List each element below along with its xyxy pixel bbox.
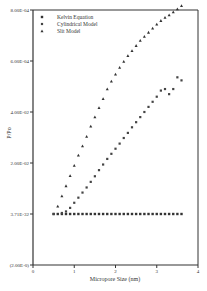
y-axis-label: P/Po [6, 127, 12, 138]
legend-item: Slit Model [57, 28, 81, 34]
y-tick-label: 6.00E-04 [11, 59, 30, 64]
y-tick-label: 4.00E-02 [11, 110, 30, 115]
legend-item: Cylindrical Model [57, 21, 98, 27]
x-tick-label: 1 [73, 269, 76, 274]
legend: Kelvin EquationCylindrical ModelSlit Mod… [41, 14, 98, 34]
x-axis-label: Micropore Size (nm) [90, 276, 140, 283]
y-tick-label: 2.00E-02 [11, 161, 30, 166]
scatter-chart: (2.00E-0)3.71E-322.00E-024.00E-026.00E-0… [0, 0, 207, 291]
axes [33, 10, 198, 265]
x-tick-label: 3 [156, 269, 159, 274]
data-points [52, 4, 183, 215]
x-axis-ticks: 01234 [32, 265, 200, 274]
series-cylindrical-model [53, 76, 183, 215]
y-tick-label: (2.00E-0) [10, 263, 30, 268]
y-axis-ticks: (2.00E-0)3.71E-322.00E-024.00E-026.00E-0… [10, 8, 33, 268]
x-tick-label: 2 [114, 269, 117, 274]
y-tick-label: 3.71E-32 [11, 212, 30, 217]
legend-item: Kelvin Equation [57, 14, 93, 20]
y-tick-label: 8.00E-04 [11, 8, 30, 13]
x-tick-label: 0 [32, 269, 35, 274]
series-kelvin-equation [52, 213, 182, 215]
x-tick-label: 4 [197, 269, 200, 274]
series-slit-model [56, 4, 183, 207]
